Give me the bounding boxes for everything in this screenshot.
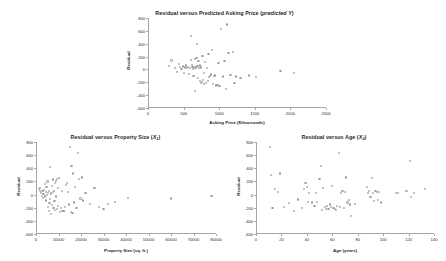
plot-area-top	[148, 18, 326, 108]
scatter-point	[73, 201, 75, 203]
scatter-point	[39, 187, 41, 189]
scatter-point	[377, 199, 379, 201]
scatter-point	[368, 190, 370, 192]
scatter-point	[340, 192, 342, 194]
scatter-point	[327, 208, 329, 210]
y-tick	[254, 155, 256, 156]
scatter-point	[89, 203, 91, 205]
y-tick	[146, 69, 148, 70]
y-tick	[146, 31, 148, 32]
scatter-point	[203, 72, 205, 74]
scatter-point	[72, 172, 74, 174]
scatter-point	[202, 79, 204, 81]
scatter-point	[67, 191, 69, 193]
y-tick-label: 0	[234, 192, 253, 197]
scatter-point	[397, 192, 399, 194]
scatter-point	[345, 176, 347, 178]
scatter-point	[188, 73, 190, 75]
chart-title-top: Residual versus Predicted Asking Price (…	[112, 10, 337, 16]
scatter-point	[65, 184, 67, 186]
x-tick	[332, 234, 333, 236]
scatter-point	[74, 186, 76, 188]
x-tick-label: 60	[330, 237, 335, 242]
x-tick	[148, 108, 149, 110]
scatter-point	[60, 207, 62, 209]
scatter-point	[77, 152, 79, 154]
scatter-point	[283, 206, 285, 208]
x-axis-line-top	[148, 107, 326, 108]
y-tick-label: -600	[234, 232, 253, 237]
scatter-point	[194, 90, 196, 92]
scatter-point	[255, 76, 257, 78]
chart-title-top-text: Residual versus Predicted Asking Price (	[155, 10, 262, 16]
y-tick-label: 400	[14, 166, 33, 171]
scatter-point	[339, 206, 341, 208]
x-tick-label: 500	[180, 111, 187, 116]
scatter-point	[127, 197, 129, 199]
scatter-point	[210, 73, 212, 75]
scatter-point	[338, 152, 340, 154]
scatter-point	[207, 53, 209, 55]
scatter-point	[56, 208, 58, 210]
x-tick	[149, 234, 150, 236]
scatter-point	[69, 146, 71, 148]
scatter-point	[279, 70, 281, 72]
scatter-point	[170, 197, 172, 199]
scatter-point	[46, 180, 48, 182]
scatter-point	[320, 165, 322, 167]
y-tick	[146, 18, 148, 19]
scatter-point	[366, 186, 368, 188]
x-tick	[358, 234, 359, 236]
x-tick-label: 40	[305, 237, 310, 242]
x-tick-label: 100	[380, 237, 387, 242]
x-tick-label: 30000	[98, 237, 109, 242]
scatter-point	[343, 207, 345, 209]
y-tick	[146, 95, 148, 96]
y-tick-label: -200	[234, 205, 253, 210]
scatter-point	[63, 210, 65, 212]
y-tick	[34, 208, 36, 209]
scatter-point	[293, 210, 295, 212]
scatter-point	[170, 59, 172, 61]
scatter-point	[68, 203, 70, 205]
x-tick-label: 1500	[250, 111, 259, 116]
scatter-point	[297, 198, 299, 200]
x-tick	[307, 234, 308, 236]
scatter-point	[331, 185, 333, 187]
x-tick-label: 80000	[210, 237, 221, 242]
scatter-point	[409, 160, 411, 162]
scatter-point	[322, 187, 324, 189]
scatter-point	[47, 192, 49, 194]
scatter-point	[222, 75, 224, 77]
plot-area-bottom-left	[36, 142, 216, 234]
chart-title-bottom-right: Residual versus Age (X2)	[228, 134, 440, 141]
x-tick-label: 70000	[188, 237, 199, 242]
scatter-point	[218, 85, 220, 87]
scatter-point	[301, 207, 303, 209]
y-tick	[34, 142, 36, 143]
x-tick-label: 2500	[321, 111, 330, 116]
scatter-point	[54, 182, 56, 184]
scatter-point	[315, 192, 317, 194]
scatter-point	[178, 63, 180, 65]
scatter-point	[220, 28, 222, 30]
y-tick-label: -400	[14, 218, 33, 223]
scatter-point	[61, 190, 63, 192]
scatter-point	[410, 196, 412, 198]
scatter-point	[293, 72, 295, 74]
y-tick	[34, 221, 36, 222]
scatter-point	[229, 74, 231, 76]
scatter-point	[313, 205, 315, 207]
scatter-point	[311, 201, 313, 203]
scatter-point	[279, 172, 281, 174]
scatter-point	[44, 183, 46, 185]
x-tick-label: 20	[279, 237, 284, 242]
y-tick	[254, 142, 256, 143]
scatter-point	[424, 188, 426, 190]
scatter-point	[93, 187, 95, 189]
x-tick-label: 60000	[165, 237, 176, 242]
scatter-point	[335, 209, 337, 211]
scatter-point	[349, 203, 351, 205]
chart-title-bl-close: )	[159, 134, 161, 140]
scatter-point	[70, 165, 72, 167]
